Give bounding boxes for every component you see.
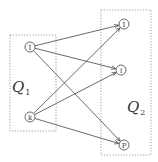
groups-layer: Q1Q2	[10, 10, 151, 155]
bipartite-diagram: Q1Q2 1k1iP	[0, 0, 158, 162]
edges-layer	[33, 25, 120, 143]
edge-l1-rp	[33, 51, 120, 141]
node-label: 1	[28, 44, 32, 52]
node-label: P	[122, 142, 127, 150]
group-label: Q1	[12, 78, 30, 97]
group-label: Q2	[127, 98, 145, 117]
group-q2: Q2	[101, 10, 151, 155]
node-lk: k	[25, 112, 35, 122]
node-rp: P	[119, 140, 129, 150]
edge-l1-ri	[35, 48, 116, 68]
node-label: 1	[122, 21, 126, 29]
node-l1: 1	[25, 42, 35, 52]
node-ri: i	[116, 65, 126, 75]
edge-lk-rp	[35, 118, 119, 143]
edge-lk-r1	[34, 28, 121, 114]
edge-l1-r1	[35, 25, 119, 46]
node-r1: 1	[119, 19, 129, 29]
edge-lk-ri	[34, 73, 116, 115]
group-box	[101, 10, 151, 155]
nodes-layer: 1k1iP	[25, 19, 129, 150]
